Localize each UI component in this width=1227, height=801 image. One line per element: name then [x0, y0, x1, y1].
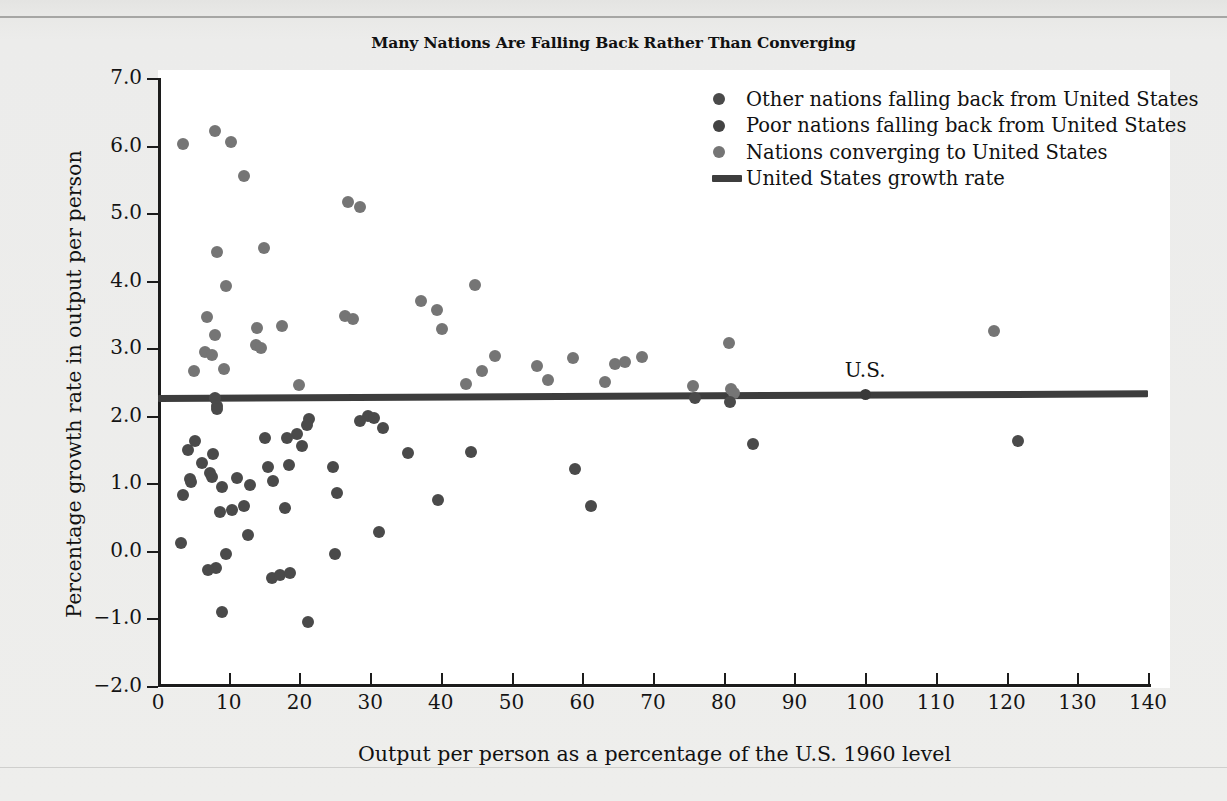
data-point: [182, 444, 194, 456]
data-point: [329, 548, 341, 560]
data-point: [988, 325, 1000, 337]
data-point: [585, 500, 597, 512]
data-point: [211, 246, 223, 258]
legend-line-icon: [712, 175, 746, 182]
data-point: [283, 459, 295, 471]
line-swatch: [712, 175, 742, 182]
data-point: [216, 606, 228, 618]
x-tick-label: 130: [1047, 690, 1107, 714]
y-tick-label: 7.0: [78, 65, 142, 89]
data-point: [723, 337, 735, 349]
data-point: [207, 448, 219, 460]
data-point: [567, 352, 579, 364]
data-point: [465, 446, 477, 458]
legend-item-poor: Poor nations falling back from United St…: [712, 113, 1152, 140]
data-point: [431, 304, 443, 316]
legend-item-label: United States growth rate: [746, 167, 1005, 190]
data-point: [327, 461, 339, 473]
data-point: [225, 136, 237, 148]
data-point: [211, 403, 223, 415]
page-title: Many Nations Are Falling Back Rather Tha…: [0, 33, 1227, 52]
data-point: [209, 125, 221, 137]
us-growth-rate-line: [158, 390, 1148, 402]
y-tick: [147, 618, 158, 620]
legend-dot-icon: [712, 120, 746, 132]
data-point: [469, 279, 481, 291]
data-point: [1012, 435, 1024, 447]
data-point: [354, 415, 366, 427]
data-point: [177, 138, 189, 150]
legend-item-other: Other nations falling back from United S…: [712, 86, 1152, 113]
x-tick-label: 70: [623, 690, 683, 714]
x-tick-label: 40: [411, 690, 471, 714]
data-point: [258, 242, 270, 254]
y-tick: [147, 348, 158, 350]
data-point: [636, 351, 648, 363]
data-point: [460, 378, 472, 390]
data-point: [201, 311, 213, 323]
us-annotation-label: U.S.: [845, 358, 886, 382]
data-point: [489, 350, 501, 362]
data-point: [296, 440, 308, 452]
y-tick-label: 4.0: [78, 268, 142, 292]
data-point: [687, 380, 699, 392]
data-point: [185, 476, 197, 488]
data-point: [301, 419, 313, 431]
data-point: [689, 392, 701, 404]
data-point: [279, 502, 291, 514]
data-point: [432, 494, 444, 506]
y-tick: [147, 213, 158, 215]
x-tick-label: 10: [199, 690, 259, 714]
data-point: [569, 463, 581, 475]
data-point: [206, 471, 218, 483]
legend-item-conv: Nations converging to United States: [712, 139, 1152, 166]
dot-swatch: [713, 120, 725, 132]
legend-item-label: Other nations falling back from United S…: [746, 88, 1199, 111]
legend-dot-icon: [712, 146, 746, 158]
y-tick: [147, 551, 158, 553]
data-point: [342, 196, 354, 208]
data-point: [302, 616, 314, 628]
data-point: [724, 396, 736, 408]
x-tick-label: 120: [977, 690, 1037, 714]
data-point: [293, 379, 305, 391]
x-tick-label: 60: [552, 690, 612, 714]
data-point: [291, 428, 303, 440]
legend-item-usline: United States growth rate: [712, 166, 1152, 193]
data-point: [331, 487, 343, 499]
x-tick-label: 0: [128, 690, 188, 714]
y-tick: [147, 483, 158, 485]
y-tick-label: 3.0: [78, 335, 142, 359]
y-tick: [147, 146, 158, 148]
y-tick-label: 6.0: [78, 133, 142, 157]
data-point: [531, 360, 543, 372]
x-axis-title: Output per person as a percentage of the…: [158, 742, 1151, 766]
data-point: [284, 567, 296, 579]
data-point-united-states: [860, 389, 871, 400]
data-point: [415, 295, 427, 307]
data-point: [609, 358, 621, 370]
dot-swatch: [713, 146, 725, 158]
data-point: [220, 280, 232, 292]
data-point: [276, 320, 288, 332]
data-point: [177, 489, 189, 501]
y-tick-label: 1.0: [78, 470, 142, 494]
data-point: [206, 349, 218, 361]
data-point: [218, 363, 230, 375]
x-tick-label: 90: [764, 690, 824, 714]
data-point: [216, 481, 228, 493]
data-point: [599, 376, 611, 388]
data-point: [244, 479, 256, 491]
data-point: [259, 432, 271, 444]
data-point: [220, 548, 232, 560]
x-tick-label: 110: [906, 690, 966, 714]
figure: Many Nations Are Falling Back Rather Tha…: [0, 0, 1227, 801]
data-point: [476, 365, 488, 377]
y-tick: [147, 416, 158, 418]
data-point: [747, 438, 759, 450]
data-point: [231, 472, 243, 484]
data-point: [267, 475, 279, 487]
data-point: [542, 374, 554, 386]
x-tick-label: 20: [269, 690, 329, 714]
legend: Other nations falling back from United S…: [712, 86, 1152, 192]
